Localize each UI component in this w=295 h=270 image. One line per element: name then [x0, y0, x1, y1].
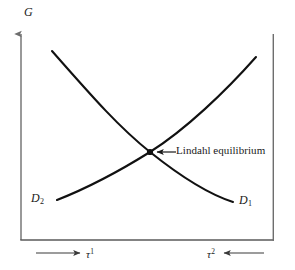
demand-curve-2-label-subscript: 2	[40, 197, 44, 206]
demand-curve-2-label: D2	[31, 192, 44, 206]
lindahl-equilibrium-figure: G D2 D1 τ1 τ2 Lindahl equilibrium	[0, 0, 295, 270]
lindahl-equilibrium-annotation: Lindahl equilibrium	[176, 145, 265, 156]
demand-curve-1-label: D1	[239, 194, 252, 208]
demand-curve-2-label-base: D	[31, 191, 40, 205]
tau-2-label: τ2	[207, 248, 215, 260]
demand-curve-1	[52, 51, 233, 202]
figure-canvas	[0, 0, 295, 270]
demand-curve-2	[57, 57, 256, 200]
lindahl-equilibrium-point	[147, 149, 153, 155]
demand-curve-1-label-base: D	[239, 193, 248, 207]
y-axis-label: G	[24, 6, 33, 18]
tau-1-label: τ1	[86, 248, 94, 260]
tau-2-superscript: 2	[211, 247, 215, 256]
demand-curve-1-label-subscript: 1	[248, 199, 252, 208]
axis-group	[20, 34, 274, 241]
tau-1-superscript: 1	[90, 247, 94, 256]
